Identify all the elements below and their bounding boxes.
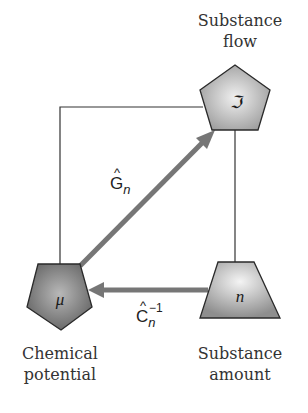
c-inverse-operator-label: ^ Cn−1 — [136, 307, 156, 327]
label-line: flow — [190, 31, 290, 52]
label-line: Substance — [190, 343, 290, 364]
chemical-potential-label: Chemical potential — [10, 343, 110, 385]
operator-subscript: n — [148, 315, 155, 330]
g-operator-arrow — [80, 130, 215, 266]
label-line: Substance — [190, 10, 290, 31]
label-line: potential — [10, 364, 110, 385]
label-line: Chemical — [10, 343, 110, 364]
substance-flow-label: Substance flow — [190, 10, 290, 52]
c-inverse-operator-arrow — [88, 282, 208, 298]
label-line: amount — [190, 364, 290, 385]
g-operator-label: ^ Gn — [110, 174, 130, 194]
operator-subscript: n — [123, 182, 130, 197]
substance-flow-symbol: ℑ — [230, 92, 242, 113]
hat-accent: ^ — [140, 298, 146, 313]
hat-accent: ^ — [114, 165, 120, 180]
substance-amount-label: Substance amount — [190, 343, 290, 385]
frame-lines — [60, 107, 235, 264]
chemical-potential-symbol: μ — [56, 290, 65, 310]
operator-superscript: −1 — [149, 301, 163, 315]
substance-amount-symbol: n — [236, 287, 245, 307]
